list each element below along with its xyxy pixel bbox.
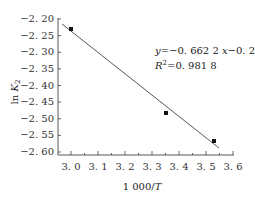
x-tick-label: 3. 4 xyxy=(169,161,188,172)
x-ticks xyxy=(71,151,233,155)
x-tick-label: 3. 1 xyxy=(88,161,107,172)
y-tick-label: −2. 40 xyxy=(20,80,54,91)
y-tick-label: −2. 35 xyxy=(20,63,54,74)
x-tick-label: 3. 2 xyxy=(115,161,134,172)
regression-equation: y=−0. 662 2 x−0. 253 8 xyxy=(154,45,255,56)
chart: −2. 20 −2. 25 −2. 30 −2. 35 −2. 40 −2. 4… xyxy=(0,0,255,198)
x-tick-label: 3. 0 xyxy=(61,161,80,172)
data-point xyxy=(212,139,216,143)
data-point xyxy=(164,111,168,115)
x-tick-label: 3. 5 xyxy=(196,161,215,172)
r-squared: R2=0. 981 8 xyxy=(154,59,217,71)
y-tick-label: −2. 55 xyxy=(20,129,54,140)
y-tick-label: −2. 25 xyxy=(20,30,54,41)
x-axis-title: 1 000/T xyxy=(123,181,163,192)
y-tick-labels: −2. 20 −2. 25 −2. 30 −2. 35 −2. 40 −2. 4… xyxy=(20,13,54,157)
y-tick-label: −2. 30 xyxy=(20,46,54,57)
y-tick-label: −2. 50 xyxy=(20,113,54,124)
y-tick-label: −2. 20 xyxy=(20,13,54,24)
y-tick-label: −2. 60 xyxy=(20,146,54,157)
x-tick-labels: 3. 0 3. 1 3. 2 3. 3 3. 4 3. 5 3. 6 xyxy=(61,161,242,172)
fit-line xyxy=(62,24,219,148)
data-point xyxy=(69,27,73,31)
y-tick-label: −2. 45 xyxy=(20,96,54,107)
x-tick-label: 3. 3 xyxy=(142,161,161,172)
x-tick-label: 3. 6 xyxy=(223,161,242,172)
